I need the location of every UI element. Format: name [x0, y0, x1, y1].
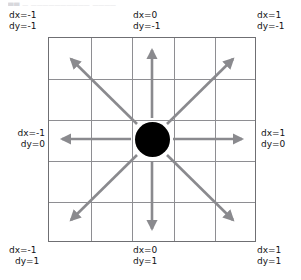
label-top-right: dx=1 dy=-1	[257, 10, 285, 32]
neighborhood-offsets-diagram: ▄▄ ▁ ▁▁▁▁▁▁▁▁▁▁ ▁▁▁▁ dx=-1 dy	[0, 0, 301, 280]
grid-line-vertical-4	[215, 38, 216, 241]
label-bottom-center: dx=0 dy=1	[133, 245, 157, 267]
label-top-right-dy: dy=-1	[257, 21, 285, 32]
label-top-left-dx: dx=-1	[9, 10, 37, 21]
label-middle-left: dx=-1 dy=0	[3, 128, 45, 150]
label-bottom-left-dx: dx=-1	[9, 245, 39, 256]
grid-line-horizontal-4	[49, 202, 255, 203]
grid-line-horizontal-2	[49, 120, 255, 121]
grid-line-vertical-3	[174, 38, 175, 241]
label-bottom-right-dx: dx=1	[257, 245, 281, 256]
label-bottom-right: dx=1 dy=1	[257, 245, 281, 267]
label-top-center-dx: dx=0	[133, 10, 161, 21]
label-bottom-left: dx=-1 dy=1	[9, 245, 39, 267]
label-middle-right-dx: dx=1	[261, 128, 285, 139]
label-bottom-center-dy: dy=1	[133, 256, 157, 267]
caption-remnant: ▄▄ ▁ ▁▁▁▁▁▁▁▁▁▁ ▁▁▁▁	[8, 0, 288, 6]
label-top-center-dy: dy=-1	[133, 21, 161, 32]
grid-line-vertical-1	[91, 38, 92, 241]
grid-line-horizontal-1	[49, 79, 255, 80]
label-top-center: dx=0 dy=-1	[133, 10, 161, 32]
label-top-right-dx: dx=1	[257, 10, 285, 21]
label-bottom-right-dy: dy=1	[257, 256, 281, 267]
grid-line-horizontal-3	[49, 161, 255, 162]
label-middle-right-dy: dy=0	[261, 139, 285, 150]
label-bottom-center-dx: dx=0	[133, 245, 157, 256]
label-middle-right: dx=1 dy=0	[261, 128, 285, 150]
label-middle-left-dy: dy=0	[3, 139, 45, 150]
label-middle-left-dx: dx=-1	[3, 128, 45, 139]
label-bottom-left-dy: dy=1	[9, 256, 39, 267]
label-top-left-dy: dy=-1	[9, 21, 37, 32]
center-cell-marker	[135, 122, 170, 157]
label-top-left: dx=-1 dy=-1	[9, 10, 37, 32]
grid-line-vertical-2	[132, 38, 133, 241]
